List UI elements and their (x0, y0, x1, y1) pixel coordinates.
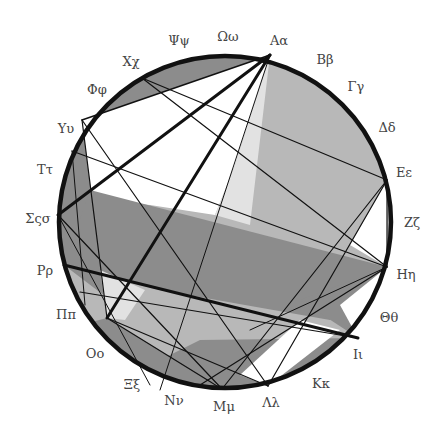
label-xi: Ξξ (124, 377, 140, 392)
label-iota: Ιι (353, 347, 363, 362)
label-chi: Χχ (122, 54, 139, 69)
label-lambda: Λλ (262, 395, 280, 410)
label-gamma: Γγ (348, 79, 365, 94)
label-delta: Δδ (378, 120, 395, 135)
label-sigma: Σςσ (25, 211, 50, 226)
label-theta: Θθ (380, 310, 398, 325)
label-mu: Μμ (213, 399, 235, 414)
label-alpha: Aα (270, 33, 288, 48)
label-pi: Ππ (56, 307, 76, 322)
label-upsilon: Υυ (58, 121, 75, 136)
label-epsilon: Εε (396, 165, 412, 180)
diagram-canvas: AαΒβΓγΔδΕεΖζΗηΘθΙιΚκΛλΜμΝνΞξΟοΠπΡρΣςσΤτΥ… (0, 0, 444, 437)
chord-diagram (0, 0, 444, 437)
label-tau: Ττ (37, 162, 53, 177)
label-phi: Φφ (87, 82, 107, 97)
label-omicron: Οο (86, 346, 104, 361)
label-beta: Ββ (316, 52, 333, 67)
label-nu: Νν (164, 393, 183, 408)
label-kappa: Κκ (312, 376, 330, 391)
label-omega: Ωω (217, 29, 238, 44)
label-zeta: Ζζ (404, 215, 420, 230)
label-eta: Ηη (396, 267, 415, 282)
label-rho: Ρρ (37, 263, 53, 278)
label-psi: Ψψ (168, 33, 190, 48)
